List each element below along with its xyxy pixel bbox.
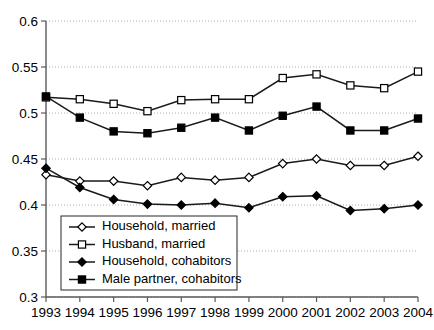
data-point-s3-2000 [279,112,286,119]
y-tick-label-0.4: 0.4 [19,198,38,213]
x-tick-label-1998: 1998 [200,305,230,320]
data-point-s0-2000 [279,159,287,167]
series-line-1 [46,72,418,112]
x-tick-label-1999: 1999 [234,305,264,320]
y-tick-label-0.6: 0.6 [19,14,38,29]
data-point-s2-2002 [346,206,354,214]
y-tick-label-0.3: 0.3 [19,290,38,305]
y-tick-label-0.55: 0.55 [12,60,38,75]
data-point-s2-1994 [76,183,84,191]
legend-label-1: Husband, married [102,236,205,251]
data-point-s1-1998 [211,96,218,103]
data-point-s1-2000 [279,74,286,81]
data-point-s1-1995 [110,100,117,107]
data-point-s2-2000 [279,193,287,201]
data-point-s2-1998 [211,199,219,207]
legend-marker-open-square-1 [78,241,85,248]
data-point-s2-2004 [414,201,422,209]
data-point-s0-1997 [177,173,185,181]
x-tick-label-1993: 1993 [31,305,61,320]
data-point-s2-2001 [312,192,320,200]
chart-canvas: 0.30.350.40.450.50.550.61993199419951996… [0,0,434,330]
x-tick-label-2004: 2004 [403,305,434,320]
data-point-s2-2003 [380,204,388,212]
data-point-s3-1996 [144,130,151,137]
series-line-0 [46,156,418,185]
legend-label-2: Household, cohabitors [102,253,232,268]
x-tick-label-1997: 1997 [166,305,196,320]
data-point-s0-1996 [143,181,151,189]
data-point-s1-2003 [381,85,388,92]
data-point-s1-2001 [313,71,320,78]
data-point-s3-1997 [178,124,185,131]
data-point-s2-1995 [109,195,117,203]
data-point-s3-2001 [313,103,320,110]
x-tick-label-2000: 2000 [268,305,298,320]
data-point-s3-1999 [245,127,252,134]
data-point-s3-2004 [414,115,421,122]
y-tick-label-0.5: 0.5 [19,106,38,121]
data-point-s2-1996 [143,200,151,208]
data-point-s1-1994 [76,96,83,103]
data-point-s0-1998 [211,176,219,184]
data-point-s3-1994 [76,114,83,121]
x-tick-label-1994: 1994 [65,305,96,320]
data-point-s0-2003 [380,161,388,169]
legend-label-0: Household, married [102,218,215,233]
data-point-s3-2002 [347,127,354,134]
data-point-s0-2001 [312,155,320,163]
data-point-s1-1996 [144,108,151,115]
data-point-s3-1995 [110,128,117,135]
data-point-s3-1993 [42,93,49,100]
data-point-s0-1995 [109,177,117,185]
x-tick-label-1995: 1995 [99,305,129,320]
data-point-s2-1999 [245,204,253,212]
y-tick-label-0.45: 0.45 [12,152,38,167]
line-chart-figure: 0.30.350.40.450.50.550.61993199419951996… [0,0,434,330]
data-point-s0-1999 [245,173,253,181]
data-point-s2-1997 [177,201,185,209]
data-point-s1-2002 [347,82,354,89]
x-tick-label-2001: 2001 [302,305,332,320]
series-line-2 [46,168,418,210]
data-point-s3-2003 [381,127,388,134]
x-tick-label-2002: 2002 [335,305,365,320]
y-tick-label-0.35: 0.35 [12,244,38,259]
legend-label-3: Male partner, cohabitors [102,271,242,286]
data-point-s1-1997 [178,97,185,104]
data-point-s3-1998 [211,114,218,121]
x-tick-label-1996: 1996 [132,305,162,320]
data-point-s1-1999 [245,96,252,103]
data-point-s2-1993 [42,164,50,172]
legend-marker-filled-square-3 [78,276,85,283]
data-point-s0-2002 [346,161,354,169]
data-point-s1-2004 [414,68,421,75]
x-tick-label-2003: 2003 [369,305,399,320]
